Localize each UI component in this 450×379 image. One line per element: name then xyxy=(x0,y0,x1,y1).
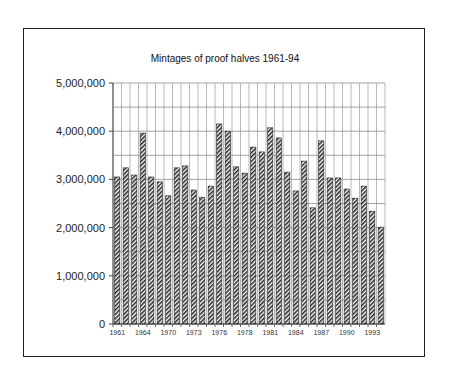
bar-1982 xyxy=(276,138,281,324)
x-tick-label: 1961 xyxy=(109,329,125,336)
bar-1979 xyxy=(251,147,256,324)
y-tick-label: 2,000,000 xyxy=(56,222,105,234)
bar-1987 xyxy=(319,141,324,324)
bar-1994 xyxy=(378,227,383,324)
bar-chart: 01,000,0002,000,0003,000,0004,000,0005,0… xyxy=(0,0,450,379)
bar-1969 xyxy=(157,182,162,324)
bar-1976 xyxy=(225,131,230,324)
bar-1978 xyxy=(242,173,247,324)
bar-1990 xyxy=(344,189,349,324)
bar-1961 xyxy=(115,177,120,324)
y-tick-label: 1,000,000 xyxy=(56,270,105,282)
x-tick-label: 1984 xyxy=(288,329,304,336)
bar-1970 xyxy=(166,196,171,324)
bar-1984 xyxy=(293,191,298,324)
bar-1993 xyxy=(370,211,375,324)
bar-1989 xyxy=(336,178,341,324)
bar-1977 xyxy=(234,167,239,324)
x-tick-label: 1978 xyxy=(237,329,253,336)
y-tick-label: 4,000,000 xyxy=(56,125,105,137)
x-tick-label: 1973 xyxy=(186,329,202,336)
bar-1986 xyxy=(310,208,315,324)
y-tick-label: 3,000,000 xyxy=(56,173,105,185)
x-tick-label: 1970 xyxy=(160,329,176,336)
x-tick-label: 1987 xyxy=(313,329,329,336)
bar-1981 xyxy=(268,128,273,324)
bar-1974 xyxy=(200,197,205,324)
bar-1976 xyxy=(217,124,222,324)
bar-1991 xyxy=(353,198,358,324)
x-tick-label: 1976 xyxy=(211,329,227,336)
x-tick-label: 1981 xyxy=(262,329,278,336)
bar-1988 xyxy=(327,178,332,324)
bar-1972 xyxy=(183,166,188,324)
bar-1980 xyxy=(259,152,264,324)
bar-1973 xyxy=(191,190,196,324)
bar-1971 xyxy=(174,168,179,324)
x-tick-label: 1993 xyxy=(364,329,380,336)
bar-1963 xyxy=(132,175,137,324)
y-tick-label: 5,000,000 xyxy=(56,77,105,89)
y-tick-label: 0 xyxy=(99,318,105,330)
bar-1964 xyxy=(140,133,145,324)
bar-1962 xyxy=(123,168,128,324)
bar-1985 xyxy=(302,161,307,324)
x-tick-label: 1990 xyxy=(339,329,355,336)
bar-1975 xyxy=(208,186,213,324)
x-tick-label: 1964 xyxy=(135,329,151,336)
bar-1968 xyxy=(149,177,154,324)
bar-1983 xyxy=(285,172,290,324)
bar-1992 xyxy=(361,186,366,324)
